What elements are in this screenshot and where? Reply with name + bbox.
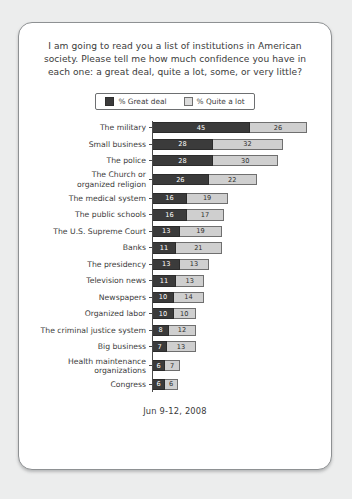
bar-segment-great-deal: 16 xyxy=(152,209,187,220)
bar-segment-quite-a-lot: 13 xyxy=(176,275,204,286)
bar-segment-great-deal: 11 xyxy=(152,242,176,253)
category-label: The Church or organized religion xyxy=(19,170,149,188)
stacked-bar: 1014 xyxy=(152,292,204,303)
chart-row: Banks1121 xyxy=(19,241,331,255)
stacked-bar: 1113 xyxy=(152,275,204,286)
chart-row: Big business713 xyxy=(19,340,331,354)
chart-row: Television news1113 xyxy=(19,274,331,288)
bar-segment-great-deal: 45 xyxy=(152,122,250,133)
chart-row: The medical system1619 xyxy=(19,191,331,205)
category-label: Health maintenance organizations xyxy=(19,357,149,375)
chart-row: The criminal justice system812 xyxy=(19,323,331,337)
bar-segment-quite-a-lot: 6 xyxy=(165,379,178,390)
legend-label-great-deal: % Great deal xyxy=(118,97,166,106)
category-label: Organized labor xyxy=(19,309,149,318)
stacked-bar: 2830 xyxy=(152,155,278,166)
chart-footer-date: Jun 9-12, 2008 xyxy=(19,406,331,416)
legend-item-quite-a-lot: % Quite a lot xyxy=(184,97,245,106)
bar-segment-quite-a-lot: 26 xyxy=(250,122,307,133)
stacked-bar: 812 xyxy=(152,325,196,336)
bar-segment-great-deal: 6 xyxy=(152,379,165,390)
bar-segment-quite-a-lot: 13 xyxy=(167,341,195,352)
bar-segment-quite-a-lot: 12 xyxy=(169,325,195,336)
bar-segment-great-deal: 26 xyxy=(152,174,209,185)
category-label: The U.S. Supreme Court xyxy=(19,227,149,236)
chart-legend: % Great deal % Quite a lot xyxy=(95,93,254,110)
chart-row: The military4526 xyxy=(19,121,331,135)
bar-segment-great-deal: 10 xyxy=(152,308,174,319)
bar-segment-quite-a-lot: 14 xyxy=(174,292,205,303)
chart-row: The police2830 xyxy=(19,154,331,168)
stacked-bar: 67 xyxy=(152,360,180,371)
bar-segment-great-deal: 6 xyxy=(152,360,165,371)
chart-row: Newspapers1014 xyxy=(19,290,331,304)
bar-segment-great-deal: 7 xyxy=(152,341,167,352)
light-swatch-icon xyxy=(184,97,193,106)
bar-segment-great-deal: 28 xyxy=(152,139,213,150)
bar-segment-great-deal: 28 xyxy=(152,155,213,166)
stacked-bar: 1619 xyxy=(152,193,228,204)
category-label: The military xyxy=(19,123,149,132)
category-label: Banks xyxy=(19,243,149,252)
stacked-bar: 1313 xyxy=(152,259,209,270)
chart-page: I am going to read you a list of institu… xyxy=(0,0,352,499)
bar-segment-quite-a-lot: 7 xyxy=(165,360,180,371)
bar-segment-great-deal: 13 xyxy=(152,259,180,270)
bar-segment-quite-a-lot: 10 xyxy=(174,308,196,319)
bar-segment-great-deal: 13 xyxy=(152,226,180,237)
stacked-bar: 66 xyxy=(152,379,178,390)
category-label: Newspapers xyxy=(19,293,149,302)
category-label: The police xyxy=(19,156,149,165)
bar-segment-quite-a-lot: 13 xyxy=(180,259,208,270)
category-label: Small business xyxy=(19,140,149,149)
category-label: Television news xyxy=(19,276,149,285)
bar-segment-quite-a-lot: 30 xyxy=(213,155,278,166)
legend-container: % Great deal % Quite a lot xyxy=(19,93,331,110)
bar-segment-quite-a-lot: 17 xyxy=(187,209,224,220)
chart-row: The public schools1617 xyxy=(19,208,331,222)
bar-segment-great-deal: 10 xyxy=(152,292,174,303)
chart-row: The U.S. Supreme Court1319 xyxy=(19,224,331,238)
bar-segment-quite-a-lot: 19 xyxy=(180,226,221,237)
stacked-bar: 1121 xyxy=(152,242,222,253)
bar-segment-quite-a-lot: 32 xyxy=(213,139,283,150)
chart-row: The Church or organized religion2622 xyxy=(19,170,331,189)
stacked-bar: 1010 xyxy=(152,308,196,319)
category-label: The criminal justice system xyxy=(19,326,149,335)
bar-segment-quite-a-lot: 19 xyxy=(187,193,228,204)
category-label: The presidency xyxy=(19,260,149,269)
chart-row: Organized labor1010 xyxy=(19,307,331,321)
bar-segment-quite-a-lot: 22 xyxy=(209,174,257,185)
legend-label-quite-a-lot: % Quite a lot xyxy=(197,97,245,106)
bar-segment-great-deal: 8 xyxy=(152,325,169,336)
chart-row: Small business2832 xyxy=(19,137,331,151)
dark-swatch-icon xyxy=(105,97,114,106)
stacked-bar: 1617 xyxy=(152,209,224,220)
category-label: The public schools xyxy=(19,210,149,219)
category-label: The medical system xyxy=(19,194,149,203)
bar-segment-great-deal: 11 xyxy=(152,275,176,286)
chart-row: The presidency1313 xyxy=(19,257,331,271)
stacked-bar: 713 xyxy=(152,341,196,352)
stacked-bar: 1319 xyxy=(152,226,222,237)
chart-row: Congress66 xyxy=(19,377,331,391)
legend-item-great-deal: % Great deal xyxy=(105,97,166,106)
bar-segment-great-deal: 16 xyxy=(152,193,187,204)
bar-chart: The military4526Small business2832The po… xyxy=(19,121,331,392)
stacked-bar: 2622 xyxy=(152,174,257,185)
stacked-bar: 2832 xyxy=(152,139,283,150)
bar-segment-quite-a-lot: 21 xyxy=(176,242,222,253)
stacked-bar: 4526 xyxy=(152,122,307,133)
chart-card: I am going to read you a list of institu… xyxy=(18,22,332,470)
category-label: Congress xyxy=(19,380,149,389)
category-axis-line xyxy=(152,121,153,392)
chart-row: Health maintenance organizations67 xyxy=(19,356,331,375)
category-label: Big business xyxy=(19,342,149,351)
chart-question-title: I am going to read you a list of institu… xyxy=(35,40,315,80)
